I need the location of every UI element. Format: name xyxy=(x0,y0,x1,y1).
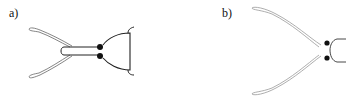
panel-b-drawing xyxy=(252,7,321,95)
pronotum-edge-a xyxy=(128,27,134,75)
eye-lower-b xyxy=(324,55,329,60)
head-capsule-a xyxy=(103,33,130,70)
antenna-upper-b xyxy=(252,7,321,47)
panel-a-drawing xyxy=(29,27,134,78)
eye-upper-b xyxy=(324,40,329,45)
rostrum-a xyxy=(61,47,98,55)
antenna-lower-a xyxy=(29,55,72,78)
antenna-upper-a xyxy=(29,28,72,47)
antenna-lower-b xyxy=(252,55,321,95)
figure-drawings xyxy=(0,0,357,100)
eye-upper-a xyxy=(97,44,103,50)
head-capsule-b xyxy=(330,39,346,62)
eye-lower-a xyxy=(97,53,103,59)
